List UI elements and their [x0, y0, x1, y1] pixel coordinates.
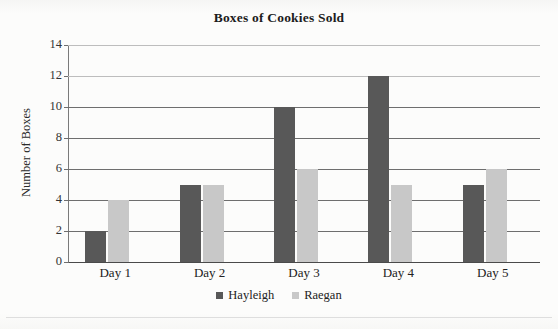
- y-tick-label-2: 2: [22, 223, 62, 238]
- bar-raegan-day-4: [391, 185, 412, 263]
- bar-raegan-day-1: [108, 200, 129, 262]
- chart-title: Boxes of Cookies Sold: [0, 10, 558, 26]
- y-tick-label-12: 12: [22, 68, 62, 83]
- bar-raegan-day-3: [297, 169, 318, 262]
- x-axis-line: [68, 262, 540, 263]
- gridline-12: [68, 76, 540, 77]
- y-tick-label-14: 14: [22, 37, 62, 52]
- y-tick-mark-0: [64, 262, 69, 263]
- legend-swatch-icon-raegan: [292, 292, 299, 299]
- bar-hayleigh-day-5: [463, 185, 484, 263]
- x-tick-label-day-2: Day 2: [162, 265, 256, 281]
- x-tick-label-day-5: Day 5: [446, 265, 540, 281]
- y-tick-label-0: 0: [22, 254, 62, 269]
- y-tick-label-8: 8: [22, 130, 62, 145]
- chart-page: Boxes of Cookies Sold Number of Boxes 02…: [0, 0, 558, 329]
- chart-legend: HayleighRaegan: [0, 288, 558, 303]
- legend-label-hayleigh: Hayleigh: [228, 288, 274, 303]
- x-tick-label-day-1: Day 1: [68, 265, 162, 281]
- legend-swatch-icon-hayleigh: [216, 292, 223, 299]
- legend-entry-raegan: Raegan: [292, 288, 341, 303]
- x-tick-label-day-4: Day 4: [351, 265, 445, 281]
- legend-entry-hayleigh: Hayleigh: [216, 288, 274, 303]
- gridline-8: [68, 138, 540, 139]
- bar-hayleigh-day-3: [274, 107, 295, 262]
- plot-area: [68, 45, 540, 262]
- bar-raegan-day-2: [203, 185, 224, 263]
- page-bottom-rule: [6, 317, 552, 318]
- bar-hayleigh-day-1: [85, 231, 106, 262]
- bar-hayleigh-day-2: [180, 185, 201, 263]
- legend-label-raegan: Raegan: [304, 288, 341, 303]
- y-tick-label-4: 4: [22, 192, 62, 207]
- gridline-10: [68, 107, 540, 108]
- gridline-14: [68, 45, 540, 46]
- y-tick-label-10: 10: [22, 99, 62, 114]
- x-tick-label-day-3: Day 3: [257, 265, 351, 281]
- y-tick-label-6: 6: [22, 161, 62, 176]
- bar-raegan-day-5: [486, 169, 507, 262]
- bar-hayleigh-day-4: [368, 76, 389, 262]
